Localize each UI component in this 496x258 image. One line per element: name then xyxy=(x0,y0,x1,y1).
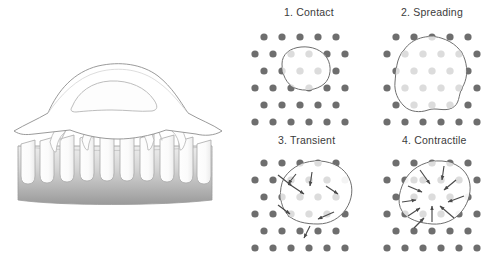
panel-label-transient: 3. Transient xyxy=(278,134,335,146)
panel-label-spreading: 2. Spreading xyxy=(401,6,463,18)
panel-contact xyxy=(251,33,348,125)
panel-label-contact: 1. Contact xyxy=(284,6,334,18)
cell-micropost-side-view xyxy=(0,0,248,258)
panel-contractile xyxy=(383,159,480,251)
panel-label-contractile: 4. Contractile xyxy=(402,134,467,146)
panel-transient xyxy=(251,159,351,251)
panel-spreading xyxy=(383,33,480,125)
figure-root: 1. Contact 2. Spreading 3. Transient 4. … xyxy=(0,0,496,258)
stage-panels-group xyxy=(248,0,496,258)
